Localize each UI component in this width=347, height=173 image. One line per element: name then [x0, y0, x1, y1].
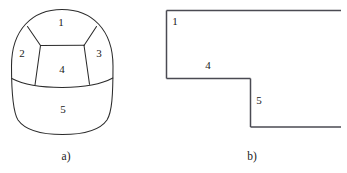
panel-a-group: 1 2 3 4 5 a) [12, 10, 114, 163]
tunnel-divider-zone2-zone4 [35, 46, 41, 86]
tunnel-divider-crown-right [84, 27, 97, 46]
zone-label-a-5: 5 [60, 103, 66, 115]
figure-svg: 1 2 3 4 5 a) 1 4 5 b) [0, 0, 347, 173]
zone-label-b-1: 1 [172, 15, 178, 27]
zone-label-a-1: 1 [58, 16, 64, 28]
tunnel-divider-zone3-zone4 [84, 45, 90, 84]
panel-a-caption: a) [62, 150, 71, 163]
zone-label-a-4: 4 [59, 63, 65, 75]
zone-label-b-5: 5 [256, 94, 262, 106]
zone-label-a-3: 3 [96, 47, 102, 59]
panel-b-caption: b) [247, 150, 257, 163]
figure-container: 1 2 3 4 5 a) 1 4 5 b) [0, 0, 347, 173]
zone-label-a-2: 2 [19, 47, 25, 59]
tunnel-divider-bench-invert [12, 78, 113, 87]
zone-label-b-4: 4 [205, 59, 211, 71]
panel-b-group: 1 4 5 b) [167, 11, 342, 163]
tunnel-divider-crown-left [28, 27, 41, 46]
